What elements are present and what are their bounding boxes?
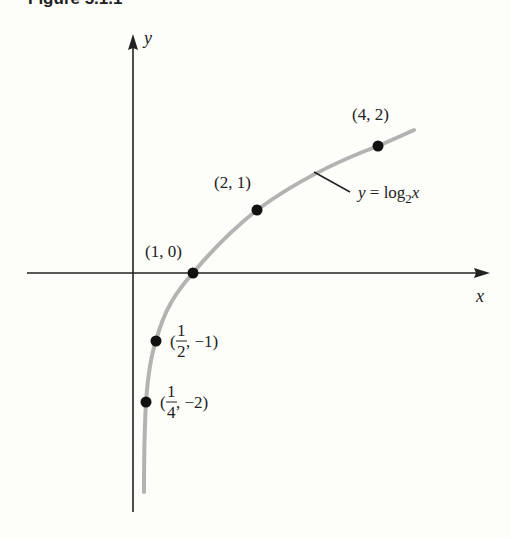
svg-text:4: 4 xyxy=(167,403,176,422)
x-axis-arrow-icon xyxy=(474,268,490,278)
point-quarter-neg2 xyxy=(141,397,152,408)
label-1-0: (1, 0) xyxy=(145,242,182,261)
point-4-2 xyxy=(373,141,384,152)
point-2-1 xyxy=(252,205,263,216)
x-axis-label: x xyxy=(475,286,484,306)
curve-label-leader xyxy=(314,172,350,192)
svg-text:, −1): , −1) xyxy=(186,332,218,351)
y-axis-label: y xyxy=(142,28,152,48)
svg-text:1: 1 xyxy=(177,321,186,340)
svg-text:(: ( xyxy=(160,393,166,412)
svg-text:2: 2 xyxy=(177,342,186,361)
point-1-0 xyxy=(188,268,199,279)
svg-text:(: ( xyxy=(170,332,176,351)
svg-text:1: 1 xyxy=(167,382,176,401)
x-axis xyxy=(27,268,490,278)
point-half-neg1 xyxy=(151,336,162,347)
y-axis-arrow-icon xyxy=(128,34,138,50)
label-2-1: (2, 1) xyxy=(214,173,251,192)
label-half-neg1: ( 1 2 , −1) xyxy=(170,321,218,361)
label-4-2: (4, 2) xyxy=(352,105,389,124)
label-quarter-neg2: ( 1 4 , −2) xyxy=(160,382,208,422)
curve-label: y = log2x xyxy=(356,183,420,206)
svg-text:, −2): , −2) xyxy=(176,393,208,412)
log-graph: y x y = log2x (4, 2) (2, 1) (1, 0) ( 1 2… xyxy=(0,0,510,538)
